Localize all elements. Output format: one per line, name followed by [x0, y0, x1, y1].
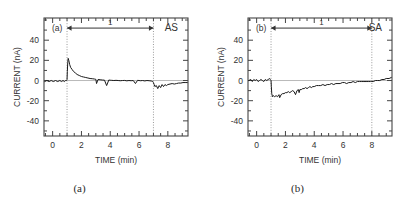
svg-text:20: 20: [234, 55, 244, 65]
svg-text:2: 2: [283, 140, 288, 150]
y-axis-title: CURRENT (nA): [216, 47, 226, 107]
span-arrow-label: 1: [319, 18, 324, 27]
svg-text:40: 40: [234, 35, 244, 45]
span-arrow-label: 1: [108, 18, 113, 27]
panel-label: (b): [256, 23, 267, 33]
plot-svg-b: 02468-40-20020401(b)SATIME (min)CURRENT …: [204, 0, 407, 180]
subfigure-caption-b: (b): [196, 182, 399, 194]
svg-text:-20: -20: [27, 96, 40, 106]
svg-text:20: 20: [30, 55, 40, 65]
svg-text:4: 4: [108, 140, 113, 150]
chart-panel-a: 02468-40-20020401(a)ASTIME (min)CURRENT …: [0, 0, 203, 180]
chart-panel-b: 02468-40-20020401(b)SATIME (min)CURRENT …: [204, 0, 407, 180]
svg-text:0: 0: [238, 76, 243, 86]
svg-text:0: 0: [34, 76, 39, 86]
x-axis-title: TIME (min): [95, 155, 137, 165]
subfigure-caption-a: (a): [0, 182, 181, 194]
svg-text:2: 2: [79, 140, 84, 150]
svg-text:6: 6: [341, 140, 346, 150]
svg-text:8: 8: [165, 140, 170, 150]
condition-label: AS: [165, 22, 179, 33]
svg-text:-40: -40: [27, 116, 40, 126]
x-axis-title: TIME (min): [299, 155, 341, 165]
svg-text:-20: -20: [231, 96, 244, 106]
condition-label: SA: [369, 22, 383, 33]
svg-text:40: 40: [30, 35, 40, 45]
figure-container: 02468-40-20020401(a)ASTIME (min)CURRENT …: [0, 0, 407, 214]
svg-text:-40: -40: [231, 116, 244, 126]
svg-text:4: 4: [312, 140, 317, 150]
svg-text:8: 8: [369, 140, 374, 150]
panel-label: (a): [52, 23, 63, 33]
y-axis-title: CURRENT (nA): [12, 47, 22, 107]
svg-text:6: 6: [137, 140, 142, 150]
plot-svg-a: 02468-40-20020401(a)ASTIME (min)CURRENT …: [0, 0, 203, 180]
svg-text:0: 0: [50, 140, 55, 150]
svg-text:0: 0: [254, 140, 259, 150]
